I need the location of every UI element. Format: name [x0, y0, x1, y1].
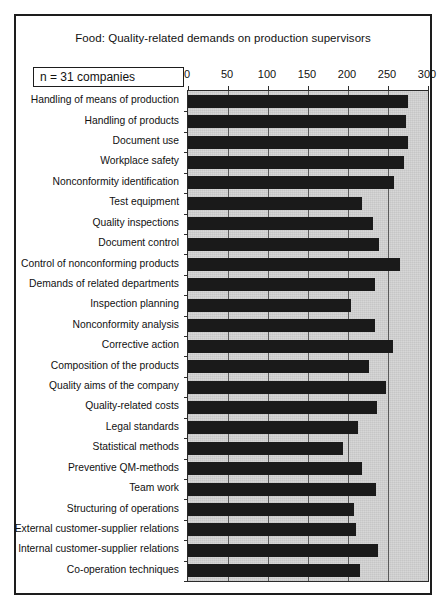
bar: [188, 544, 378, 557]
bar: [188, 115, 406, 128]
category-label: Team work: [129, 482, 179, 494]
x-tickmark: [428, 86, 429, 91]
bar: [188, 136, 408, 149]
category-label: Document control: [98, 237, 179, 249]
category-label: Nonconformity analysis: [73, 319, 179, 331]
y-tickmark: [184, 132, 188, 133]
x-tick-label: 100: [258, 68, 276, 80]
bar: [188, 503, 354, 516]
category-label: Handling of products: [85, 115, 179, 127]
bar: [188, 483, 376, 496]
bar: [188, 381, 386, 394]
x-tickmark: [268, 86, 269, 91]
bar: [188, 401, 377, 414]
plot-area: [187, 90, 429, 582]
x-tickmark: [228, 86, 229, 91]
bar: [188, 95, 408, 108]
x-tickmark: [348, 86, 349, 91]
y-tickmark: [184, 111, 188, 112]
y-tickmark: [184, 173, 188, 174]
chart-figure: Food: Quality-related demands on product…: [14, 14, 432, 595]
y-tickmark: [184, 275, 188, 276]
category-label: Composition of the products: [51, 360, 179, 372]
bar: [188, 238, 379, 251]
category-label: Nonconformity identification: [53, 176, 179, 188]
bar: [188, 278, 375, 291]
y-tickmark: [184, 459, 188, 460]
y-tickmark: [184, 479, 188, 480]
y-tickmark: [184, 254, 188, 255]
y-tickmark: [184, 356, 188, 357]
bar: [188, 258, 400, 271]
category-label: Internal customer-supplier relations: [18, 543, 179, 555]
x-tick-label: 250: [378, 68, 396, 80]
category-label: Legal standards: [106, 421, 179, 433]
bar: [188, 340, 393, 353]
x-tick-label: 0: [184, 68, 190, 80]
y-tickmark: [184, 438, 188, 439]
y-tickmark: [184, 499, 188, 500]
category-label: Test equipment: [109, 196, 179, 208]
y-tickmark: [184, 377, 188, 378]
bar: [188, 217, 373, 230]
x-tick-label: 300: [418, 68, 436, 80]
category-label: Control of nonconforming products: [21, 258, 179, 270]
category-label: Demands of related departments: [29, 278, 179, 290]
bar: [188, 360, 369, 373]
bar: [188, 462, 362, 475]
y-tickmark: [184, 418, 188, 419]
x-axis-tick-labels: 050100150200250300: [16, 68, 434, 86]
x-tickmark: [388, 86, 389, 91]
category-label: Quality-related costs: [85, 400, 179, 412]
y-tickmark: [184, 540, 188, 541]
y-tickmark: [184, 152, 188, 153]
category-label: Structuring of operations: [67, 503, 179, 515]
bar: [188, 156, 404, 169]
y-axis-category-labels: Handling of means of productionHandling …: [16, 90, 183, 580]
bar: [188, 564, 360, 577]
y-tickmark: [184, 520, 188, 521]
x-tickmark: [308, 86, 309, 91]
x-tickmark: [188, 86, 189, 91]
category-label: Co-operation techniques: [67, 564, 179, 576]
y-tickmark: [184, 316, 188, 317]
y-tickmark: [184, 214, 188, 215]
y-tickmark: [184, 581, 188, 582]
page-title: Food: Quality-related demands on product…: [16, 32, 430, 44]
bar: [188, 319, 375, 332]
bar: [188, 421, 358, 434]
x-tick-label: 150: [298, 68, 316, 80]
y-tickmark: [184, 561, 188, 562]
category-label: Handling of means of production: [31, 94, 179, 106]
y-tickmark: [184, 295, 188, 296]
bar: [188, 442, 343, 455]
category-label: Statistical methods: [93, 441, 179, 453]
bar: [188, 523, 356, 536]
category-label: Workplace safety: [100, 155, 179, 167]
category-label: External customer-supplier relations: [15, 523, 179, 535]
category-label: Preventive QM-methods: [68, 462, 179, 474]
category-label: Corrective action: [102, 339, 179, 351]
y-tickmark: [184, 397, 188, 398]
bar: [188, 299, 351, 312]
y-tickmark: [184, 336, 188, 337]
bar: [188, 197, 362, 210]
category-label: Inspection planning: [90, 298, 179, 310]
y-tickmark: [184, 234, 188, 235]
category-label: Quality aims of the company: [49, 380, 179, 392]
category-label: Document use: [113, 135, 179, 147]
x-tick-label: 50: [221, 68, 233, 80]
x-tick-label: 200: [338, 68, 356, 80]
y-tickmark: [184, 193, 188, 194]
bar: [188, 176, 394, 189]
category-label: Quality inspections: [93, 217, 179, 229]
